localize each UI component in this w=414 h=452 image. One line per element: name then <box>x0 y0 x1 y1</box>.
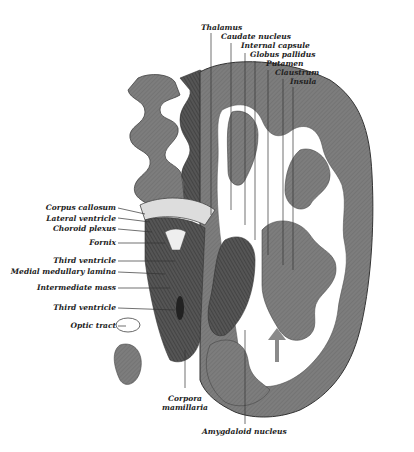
label-choroid-plexus: Choroid plexus <box>53 224 116 233</box>
label-third-ventricle-upper: Third ventricle <box>53 256 116 265</box>
label-intermediate-mass: Intermediate mass <box>37 283 116 292</box>
label-lateral-ventricle: Lateral ventricle <box>46 214 116 223</box>
label-thalamus: Thalamus <box>201 23 242 32</box>
label-amygdaloid-nucleus: Amygdaloid nucleus <box>202 427 287 436</box>
brain-diagram: Thalamus Caudate nucleus Internal capsul… <box>0 0 414 452</box>
label-claustrum: Claustrum <box>275 68 319 77</box>
label-third-ventricle-lower: Third ventricle <box>53 303 116 312</box>
label-globus-pallidus: Globus pallidus <box>250 50 315 59</box>
label-internal-capsule: Internal capsule <box>241 41 310 50</box>
label-corpora-mamillaria-line2: mamillaria <box>160 403 210 412</box>
label-corpus-callosum: Corpus callosum <box>46 203 116 212</box>
label-medial-medullary-lamina: Medial medullary lamina <box>11 267 116 276</box>
label-putamen: Putamen <box>266 59 304 68</box>
label-fornix: Fornix <box>89 238 116 247</box>
label-optic-tract: Optic tract <box>70 321 116 330</box>
label-caudate-nucleus: Caudate nucleus <box>221 32 291 41</box>
left-hemisphere <box>128 70 208 205</box>
label-insula: Insula <box>290 77 316 86</box>
label-corpora-mamillaria-line1: Corpora <box>160 394 210 403</box>
